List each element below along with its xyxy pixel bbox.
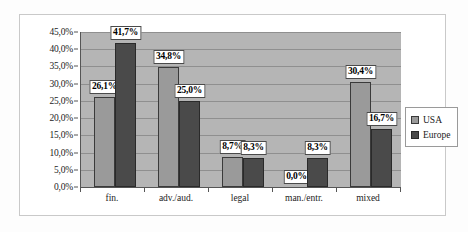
x-axis-tick-mark (144, 188, 145, 192)
y-axis-tick-mark (74, 83, 78, 84)
x-axis-tick-label: mixed (356, 193, 380, 203)
y-axis-tick-label: 10,0% (49, 148, 73, 158)
bar-usa-legal (222, 157, 243, 187)
legend-item-usa: USA (411, 112, 450, 127)
bar-value-label: 34,8% (153, 50, 184, 64)
bar-value-label: 41,7% (110, 26, 141, 40)
x-axis-tick-label: legal (231, 193, 249, 203)
bar-value-label: 8,3% (240, 141, 267, 155)
chart-legend: USAEurope (405, 107, 458, 147)
bar-group: 8,7%8,3% (209, 32, 273, 187)
bar-europe-man-entr- (307, 158, 328, 187)
x-axis-tick-mark (80, 188, 81, 192)
y-axis-tick-label: 25,0% (49, 96, 73, 106)
y-axis-tick-mark (74, 152, 78, 153)
legend-label: USA (423, 115, 442, 125)
bar-group: 30,4%16,7% (337, 32, 401, 187)
legend-item-europe: Europe (411, 127, 450, 142)
x-axis-tick-mark (208, 188, 209, 192)
y-axis: 0,0%5,0%10,0%15,0%20,0%25,0%30,0%35,0%40… (20, 32, 78, 187)
bar-group: 34,8%25,0% (145, 32, 209, 187)
y-axis-tick-mark (74, 118, 78, 119)
bar-usa-mixed (350, 82, 371, 187)
bar-value-label: 8,3% (304, 141, 331, 155)
legend-label: Europe (423, 130, 450, 140)
y-axis-tick-label: 0,0% (54, 182, 73, 192)
y-axis-tick-label: 30,0% (49, 79, 73, 89)
bar-value-label: 30,4% (345, 65, 376, 79)
bar-usa-fin- (94, 97, 115, 187)
y-axis-tick-label: 40,0% (49, 44, 73, 54)
x-axis: fin.adv./aud.legalman./entr.mixed (80, 193, 400, 211)
y-axis-tick-label: 45,0% (49, 27, 73, 37)
y-axis-tick-mark (74, 32, 78, 33)
x-axis-tick-mark (336, 188, 337, 192)
y-axis-tick-mark (74, 187, 78, 188)
plot-area: 26,1%41,7%34,8%25,0%8,7%8,3%0,0%8,3%30,4… (80, 32, 401, 188)
y-axis-tick-mark (74, 49, 78, 50)
y-axis-tick-mark (74, 66, 78, 67)
bar-europe-adv-aud- (179, 101, 200, 187)
bar-value-label: 16,7% (366, 112, 397, 126)
bar-europe-legal (243, 158, 264, 187)
legend-swatch-icon (411, 116, 419, 124)
bar-value-label: 25,0% (174, 84, 205, 98)
legend-swatch-icon (411, 131, 419, 139)
bar-group: 26,1%41,7% (81, 32, 145, 187)
bar-value-label: 0,0% (283, 170, 310, 184)
bar-europe-mixed (371, 129, 392, 187)
x-axis-tick-mark (400, 188, 401, 192)
y-axis-tick-label: 5,0% (54, 165, 73, 175)
bar-europe-fin- (115, 43, 136, 187)
y-axis-tick-label: 20,0% (49, 113, 73, 123)
y-axis-tick-mark (74, 169, 78, 170)
y-axis-tick-label: 15,0% (49, 130, 73, 140)
x-axis-tick-label: fin. (106, 193, 119, 203)
x-axis-tick-label: adv./aud. (159, 193, 193, 203)
bar-group: 0,0%8,3% (273, 32, 337, 187)
y-axis-tick-mark (74, 135, 78, 136)
x-axis-tick-label: man./entr. (285, 193, 323, 203)
y-axis-tick-label: 35,0% (49, 61, 73, 71)
chart-figure: 0,0%5,0%10,0%15,0%20,0%25,0%30,0%35,0%40… (19, 14, 446, 216)
y-axis-tick-mark (74, 100, 78, 101)
x-axis-tick-mark (272, 188, 273, 192)
